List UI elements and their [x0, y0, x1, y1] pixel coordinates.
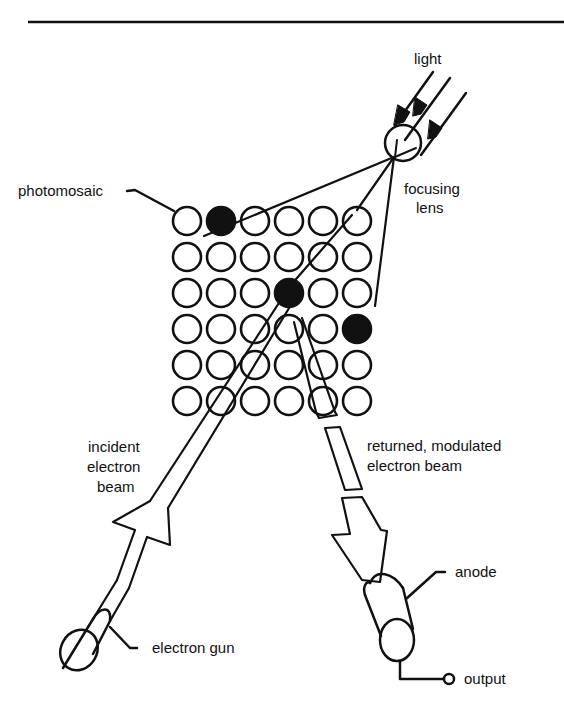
mosaic-cell — [173, 351, 201, 379]
anode-leader — [406, 572, 445, 599]
mosaic-cell — [173, 315, 201, 343]
camera-tube-diagram: light focusing lens photomosaic incident… — [0, 0, 564, 725]
mosaic-cell — [343, 243, 371, 271]
mosaic-cell — [207, 351, 235, 379]
electron-gun-icon — [53, 610, 110, 678]
label-lens: lens — [416, 199, 444, 216]
label-photomosaic: photomosaic — [18, 182, 104, 199]
label-electron-gun: electron gun — [152, 639, 235, 656]
mosaic-cell-charged — [207, 207, 235, 235]
label-output: output — [464, 670, 507, 687]
focusing-lens-icon — [385, 125, 421, 161]
label-returned: returned, modulated — [367, 437, 501, 454]
photomosaic-leader — [127, 190, 174, 211]
mosaic-cell — [207, 315, 235, 343]
mosaic-cell — [173, 279, 201, 307]
anode-icon — [364, 574, 414, 661]
mosaic-cell — [275, 207, 303, 235]
mosaic-cell — [309, 207, 337, 235]
mosaic-cell — [343, 279, 371, 307]
mosaic-cell — [173, 387, 201, 415]
label-anode: anode — [455, 563, 497, 580]
label-light: light — [414, 50, 442, 67]
mosaic-cell — [309, 279, 337, 307]
mosaic-cell — [309, 315, 337, 343]
mosaic-cell — [275, 243, 303, 271]
label-electron-beam: electron beam — [367, 457, 462, 474]
mosaic-cell — [343, 351, 371, 379]
mosaic-cell — [343, 387, 371, 415]
label-focusing: focusing — [404, 180, 460, 197]
mosaic-cell — [241, 243, 269, 271]
mosaic-cell — [241, 279, 269, 307]
mosaic-cell — [241, 207, 269, 235]
mosaic-cell — [207, 279, 235, 307]
mosaic-cell — [173, 207, 201, 235]
mosaic-cell — [241, 387, 269, 415]
mosaic-cell-charged — [343, 315, 371, 343]
light-arrows-icon — [394, 72, 466, 155]
label-electron: electron — [87, 458, 140, 475]
photomosaic-grid — [173, 207, 371, 415]
incident-electron-beam — [93, 215, 352, 621]
mosaic-cell — [207, 243, 235, 271]
label-incident: incident — [88, 438, 141, 455]
mosaic-cell — [275, 351, 303, 379]
label-beam: beam — [97, 478, 135, 495]
output-terminal-icon — [400, 661, 454, 684]
mosaic-cell — [173, 243, 201, 271]
electron-gun-leader — [110, 627, 137, 648]
mosaic-cell — [275, 387, 303, 415]
